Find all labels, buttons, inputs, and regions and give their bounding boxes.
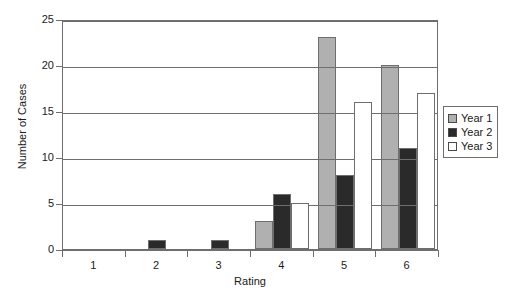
gridline (63, 67, 437, 68)
gridline (63, 159, 437, 160)
y-axis-tick-label: 10 (14, 152, 54, 163)
gridline (63, 205, 437, 206)
plot-area (62, 20, 438, 250)
x-axis-tick-label: 2 (141, 259, 171, 272)
x-axis-tick-label: 3 (204, 259, 234, 272)
legend-item: Year 1 (448, 111, 492, 125)
y-axis-tick-label: 0 (14, 244, 54, 255)
legend: Year 1Year 2Year 3 (443, 106, 498, 158)
gridline (63, 21, 437, 22)
y-axis-tick-label: 25 (14, 14, 54, 25)
x-axis-tick-label: 4 (266, 259, 296, 272)
bars-container (63, 21, 437, 249)
y-axis-tick-label: 15 (14, 106, 54, 117)
legend-item: Year 2 (448, 125, 492, 139)
bar (399, 148, 417, 249)
x-axis-tick (125, 251, 126, 257)
x-axis-tick (375, 251, 376, 257)
x-axis-tick (438, 251, 439, 257)
x-axis-tick (313, 251, 314, 257)
legend-label: Year 2 (461, 127, 492, 138)
x-axis-tick (250, 251, 251, 257)
bar (273, 194, 291, 249)
bar (255, 221, 273, 249)
legend-item: Year 3 (448, 139, 492, 153)
y-axis-tick-label: 20 (14, 60, 54, 71)
bar (318, 37, 336, 249)
bar (336, 175, 354, 249)
legend-swatch-icon (448, 128, 457, 137)
y-axis-tick-labels: 0510152025 (0, 0, 54, 299)
x-axis-tick (62, 251, 63, 257)
y-axis-tick-label: 5 (14, 198, 54, 209)
x-axis-title: Rating (62, 275, 438, 288)
legend-swatch-icon (448, 114, 457, 123)
legend-label: Year 3 (461, 141, 492, 152)
x-axis-tick-label: 1 (78, 259, 108, 272)
x-axis-tick (187, 251, 188, 257)
x-axis-tick-label: 5 (329, 259, 359, 272)
legend-swatch-icon (448, 142, 457, 151)
bar-chart: Number of Cases 0510152025 123456 Rating… (0, 0, 515, 299)
x-axis-tick-label: 6 (392, 259, 422, 272)
bar (381, 65, 399, 249)
bar (211, 240, 229, 249)
bar (148, 240, 166, 249)
legend-label: Year 1 (461, 113, 492, 124)
gridline (63, 113, 437, 114)
